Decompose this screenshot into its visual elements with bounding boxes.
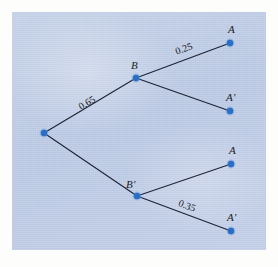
edge-B-to-A-prime bbox=[136, 78, 230, 111]
tree-node-A2[interactable] bbox=[228, 161, 234, 167]
node-label-A-top: A bbox=[228, 24, 235, 35]
tree-node-B[interactable] bbox=[133, 75, 139, 81]
tree-node-Bp[interactable] bbox=[134, 193, 140, 199]
tree-node-root[interactable] bbox=[41, 130, 47, 136]
node-label-A-bottom: A bbox=[229, 145, 236, 156]
tree-node-Ap2[interactable] bbox=[228, 228, 234, 234]
node-label-B-prime: B' bbox=[126, 179, 135, 190]
figure-canvas: BB'AA'AA'0.650.250.35 bbox=[0, 0, 278, 267]
tree-node-A1[interactable] bbox=[227, 40, 233, 46]
tree-graphics bbox=[0, 0, 278, 267]
edge-B-prime-to-A bbox=[137, 164, 231, 196]
node-label-A-prime-top: A' bbox=[226, 92, 235, 103]
tree-node-Ap1[interactable] bbox=[227, 108, 233, 114]
edge-root-to-B-prime bbox=[44, 133, 137, 196]
node-label-B: B bbox=[131, 60, 138, 71]
node-label-A-prime-bottom: A' bbox=[227, 212, 236, 223]
